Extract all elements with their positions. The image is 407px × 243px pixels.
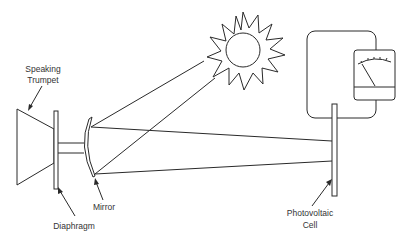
photovoltaic-cell	[332, 104, 337, 196]
label-diaphragm: Diaphragm	[53, 221, 95, 231]
connector-rod	[58, 143, 84, 153]
sun-to-mirror-beams	[91, 61, 215, 174]
meter-icon	[354, 50, 395, 100]
label-speaking-trumpet-line2: Trumpet	[27, 75, 59, 85]
label-mirror: Mirror	[93, 202, 115, 212]
label-speaking-trumpet-line1: Speaking	[25, 64, 61, 74]
speaking-trumpet	[17, 109, 54, 185]
diaphragm	[54, 111, 58, 189]
mirror-to-cell-beams	[91, 127, 332, 174]
sun-icon	[207, 12, 285, 90]
label-photovoltaic-line2: Cell	[303, 220, 318, 230]
photophone-diagram: Speaking Trumpet Diaphragm Mirror Photov…	[0, 0, 407, 243]
label-photovoltaic-line1: Photovoltaic	[287, 208, 334, 218]
